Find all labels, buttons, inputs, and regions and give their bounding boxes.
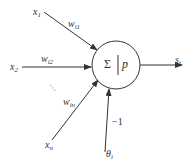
input-label-x2: x2 <box>10 62 18 74</box>
neuron-node <box>92 41 140 89</box>
weight-label-w-i2: wi2 <box>41 54 53 66</box>
threshold-label: θi <box>106 149 113 161</box>
output-label: si <box>175 55 181 67</box>
neuron-diagram <box>0 0 191 163</box>
weight-label-w-i1: wi1 <box>68 19 80 31</box>
activation-symbol: p <box>122 58 128 70</box>
threshold-arrow <box>105 89 109 152</box>
input-label-x1: x1 <box>33 7 41 19</box>
weight-label-w-in: win <box>63 97 75 109</box>
threshold-weight-label: −1 <box>112 117 123 127</box>
sum-symbol: Σ <box>104 58 111 70</box>
input-label-xn: xn <box>45 140 53 152</box>
